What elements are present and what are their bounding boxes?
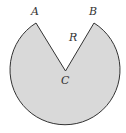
label-b: B: [88, 5, 97, 18]
label-a: A: [30, 5, 39, 18]
sector-diagram: A B R C: [0, 0, 126, 133]
label-c: C: [61, 74, 70, 87]
label-r: R: [68, 31, 77, 44]
